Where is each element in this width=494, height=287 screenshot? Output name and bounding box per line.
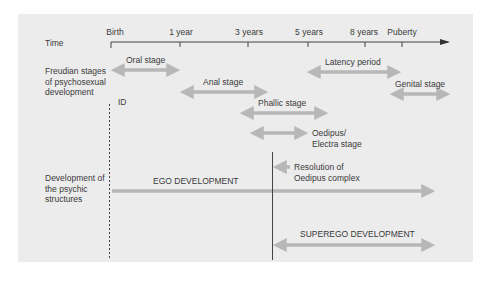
phallic-stage-label: Phallic stage [258, 98, 306, 109]
latency-period-label: Latency period [325, 57, 381, 68]
tick-label-puberty: Puberty [387, 27, 416, 37]
oedipus-stage-label-line: Electra stage [312, 139, 362, 150]
diagram-graphics [0, 0, 494, 287]
tick-label-8-years: 8 years [350, 27, 378, 37]
row-label-time: Time [45, 38, 64, 49]
time-axis [111, 42, 448, 48]
resolution-label: Resolution of Oedipus complex [294, 162, 360, 183]
genital-stage-label: Genital stage [395, 79, 445, 90]
tick-label-birth: Birth [106, 27, 123, 37]
row-label-freudian-line: of psychosexual [45, 77, 106, 88]
row-label-freudian-line: Freudian stages [45, 66, 106, 77]
tick-label-5-years: 5 years [295, 27, 323, 37]
row-label-freudian: Freudian stages of psychosexual developm… [45, 66, 106, 98]
row-label-freudian-line: development [45, 87, 106, 98]
tick-label-3-years: 3 years [235, 27, 263, 37]
superego-development-label: SUPEREGO DEVELOPMENT [300, 229, 415, 240]
row-label-psychic: Development of the psychic structures [45, 173, 105, 205]
row-label-psychic-line: Development of [45, 173, 105, 184]
tick-label-1-year: 1 year [169, 27, 193, 37]
row-label-psychic-line: the psychic [45, 184, 105, 195]
anal-stage-label: Anal stage [203, 77, 243, 88]
resolution-label-line: Oedipus complex [294, 173, 360, 184]
id-label: ID [118, 97, 127, 108]
ego-development-label: EGO DEVELOPMENT [153, 176, 239, 187]
row-label-psychic-line: structures [45, 194, 105, 205]
oedipus-stage-label-line: Oedipus/ [312, 128, 362, 139]
oedipus-stage-label: Oedipus/ Electra stage [312, 128, 362, 149]
resolution-label-line: Resolution of [294, 162, 360, 173]
oral-stage-label: Oral stage [126, 55, 165, 66]
